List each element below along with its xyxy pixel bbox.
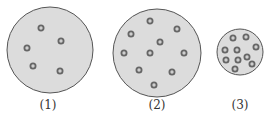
particle-icon [58,38,63,43]
particle-icon [243,34,248,39]
container-2-label: (2) [149,98,166,112]
particle-icon [174,26,179,31]
particle-icon [234,47,239,52]
particle-icon [169,69,174,74]
particle-icon [128,31,133,36]
particle-icon [249,61,254,66]
particle-icon [181,50,186,55]
particle-icon [136,67,141,72]
particle-icon [147,50,152,55]
container-1-label: (1) [40,98,57,112]
particle-icon [151,82,156,87]
particle-icon [235,57,240,62]
particle-icon [244,54,249,59]
particle-icon [157,39,162,44]
particle-icon [30,63,35,68]
particle-icon [230,35,235,40]
particle-icon [38,25,43,30]
particle-icon [223,57,228,62]
container-3-label: (3) [232,98,249,112]
container-1-circle [7,7,93,93]
particle-icon [253,44,258,49]
particle-icon [121,50,126,55]
particle-icon [232,66,237,71]
particle-icon [147,18,152,23]
particle-icon [57,68,62,73]
particle-icon [24,45,29,50]
particle-icon [222,47,227,52]
